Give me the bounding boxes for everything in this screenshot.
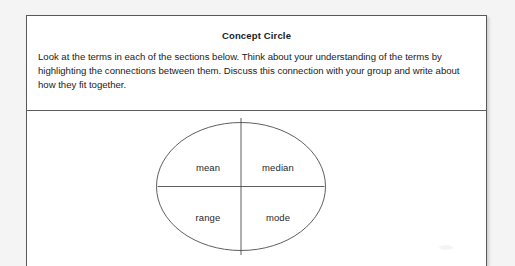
quadrant-label-range: range	[178, 212, 238, 223]
activity-area: mean median range mode	[27, 111, 486, 266]
quadrant-label-median: median	[246, 162, 310, 173]
quadrant-label-mode: mode	[246, 212, 310, 223]
worksheet-page: Concept Circle Look at the terms in each…	[26, 15, 487, 266]
concept-circle-svg	[156, 122, 328, 256]
concept-circle-diagram: mean median range mode	[156, 122, 328, 256]
instructions-block: Concept Circle Look at the terms in each…	[27, 16, 486, 111]
page-title: Concept Circle	[27, 30, 486, 42]
quadrant-label-mean: mean	[178, 162, 238, 173]
instructions-text: Look at the terms in each of the section…	[38, 50, 475, 93]
scan-artifact-speck	[439, 245, 453, 250]
